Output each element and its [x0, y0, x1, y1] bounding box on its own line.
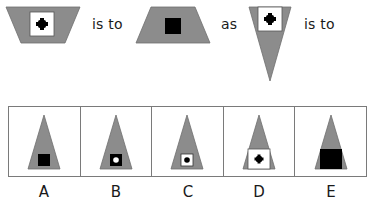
option-a[interactable] [9, 107, 81, 176]
as-text: as [221, 16, 237, 32]
figure-2-upright-trapezoid [135, 6, 211, 44]
answer-options [8, 106, 367, 177]
option-d[interactable] [224, 107, 296, 176]
option-label-c: C [152, 184, 224, 200]
option-label-d: D [223, 184, 295, 200]
is-to-text-1: is to [92, 16, 123, 32]
option-b[interactable] [81, 107, 153, 176]
option-c[interactable] [152, 107, 224, 176]
option-label-b: B [80, 184, 152, 200]
option-e[interactable] [295, 107, 366, 176]
option-label-a: A [8, 184, 80, 200]
option-label-e: E [295, 184, 367, 200]
is-to-text-2: is to [304, 16, 335, 32]
figure-3-inverted-triangle [248, 6, 292, 82]
figure-1-inverted-trapezoid [5, 6, 81, 44]
